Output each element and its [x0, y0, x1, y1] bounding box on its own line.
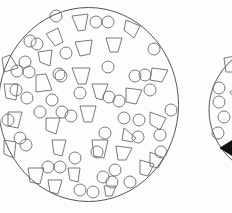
- round-particle: [20, 139, 32, 151]
- angular-particle: [72, 14, 88, 31]
- angular-particle: [116, 146, 132, 160]
- round-particle: [74, 184, 86, 196]
- angular-particle: [72, 68, 90, 84]
- round-particle: [213, 96, 225, 108]
- angular-particle: [126, 88, 142, 104]
- angular-particle: [46, 118, 60, 134]
- round-particle: [154, 129, 166, 141]
- round-particle: [24, 35, 36, 47]
- round-particle: [55, 70, 67, 82]
- round-particle: [60, 47, 72, 59]
- angular-particle: [36, 74, 52, 92]
- panel-b-cross-section: [209, 38, 232, 182]
- round-particle: [74, 87, 86, 99]
- round-particle: [109, 164, 121, 176]
- angular-particle: [52, 140, 66, 156]
- round-particle: [213, 82, 225, 94]
- angular-particle: [68, 168, 80, 182]
- round-particle: [31, 38, 43, 50]
- round-particle: [118, 112, 130, 124]
- round-particle: [155, 146, 167, 158]
- round-particle: [21, 92, 33, 104]
- round-particle: [133, 114, 145, 126]
- particle-diagram: [0, 0, 232, 213]
- round-particle: [102, 61, 114, 73]
- round-particle: [42, 161, 54, 173]
- round-particle: [218, 111, 230, 123]
- angular-particle: [92, 140, 108, 158]
- round-particle: [23, 66, 35, 78]
- solid-angular-particle: [220, 138, 232, 158]
- round-particle: [99, 127, 111, 139]
- panel-a-angular-particles: [2, 14, 168, 196]
- round-particle: [34, 106, 46, 118]
- panel-a-boundary: [0, 8, 179, 202]
- angular-particle: [150, 112, 166, 130]
- round-particle: [54, 161, 66, 173]
- angular-particle: [48, 180, 62, 194]
- round-particle: [212, 127, 224, 139]
- round-particle: [69, 152, 81, 164]
- round-particle: [102, 16, 114, 28]
- angular-particle: [38, 50, 52, 66]
- round-particle: [10, 84, 22, 96]
- angular-particle: [150, 68, 168, 82]
- round-particle: [87, 186, 99, 198]
- angular-particle: [75, 40, 92, 56]
- angular-particle: [122, 128, 136, 142]
- angular-particle: [46, 28, 63, 46]
- round-particle: [97, 171, 109, 183]
- round-particle: [165, 104, 177, 116]
- round-particle: [124, 176, 136, 188]
- panel-b-round-particles: [212, 82, 230, 139]
- panel-a-cross-section: [0, 8, 179, 202]
- angular-particle: [230, 88, 232, 100]
- round-particle: [148, 43, 160, 55]
- round-particle: [53, 68, 65, 80]
- panel-b-angular-particles: [224, 56, 232, 100]
- angular-particle: [106, 38, 122, 52]
- round-particle: [113, 95, 125, 107]
- panel-b-solid-particles: [220, 138, 232, 158]
- round-particle: [144, 84, 156, 96]
- round-particle: [46, 94, 58, 106]
- round-particle: [132, 131, 144, 143]
- round-particle: [90, 16, 102, 28]
- panel-b-boundary: [209, 38, 232, 182]
- angular-particle: [28, 168, 44, 184]
- angular-particle: [80, 106, 96, 122]
